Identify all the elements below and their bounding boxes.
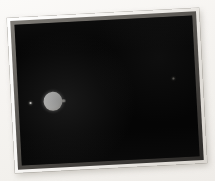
planet-limb-spur-icon: [61, 99, 65, 102]
planet-disk-icon: [43, 91, 63, 111]
film-grain-overlay: [14, 15, 199, 165]
faint-star-icon: [172, 77, 174, 79]
print-inner-bevel: [10, 11, 204, 170]
moon-dot-icon: [29, 101, 32, 104]
photographic-print: [7, 8, 207, 173]
print-paper-border: [7, 8, 207, 173]
night-sky-frame: [14, 15, 199, 165]
screenshot-root: [0, 0, 215, 181]
